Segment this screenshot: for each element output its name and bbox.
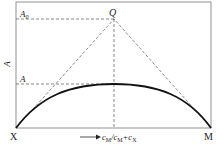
plot-frame [16, 2, 211, 128]
absorbance-curve [16, 84, 211, 128]
y-axis-label: A [2, 61, 12, 68]
a0-label: A0 [19, 9, 29, 20]
arrowhead-icon [96, 135, 101, 140]
job-plot-diagram: A0 A Q A X M cM/cM+cX [0, 0, 222, 151]
a-label: A [19, 74, 26, 84]
q-point-label: Q [109, 7, 117, 18]
x-endpoint-label: X [10, 131, 18, 142]
m-endpoint-label: M [204, 131, 213, 142]
x-axis-label: cM/cM+cX [102, 132, 137, 143]
